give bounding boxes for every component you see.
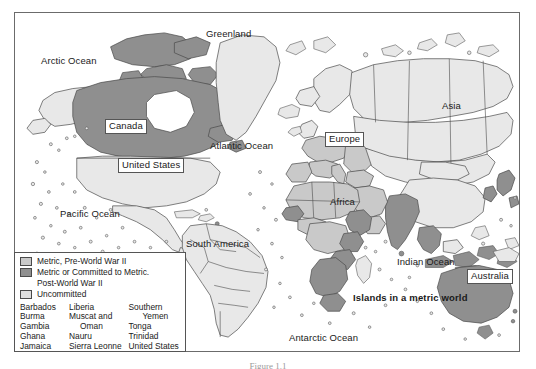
legend-metric-post-wwii-swatch	[20, 268, 32, 277]
legend-country-item: Jamaica	[20, 342, 69, 352]
legend-country-item: United States	[129, 342, 182, 352]
label-europe: Europe	[325, 132, 364, 147]
legend-uncommitted-line1: Uncommitted	[37, 289, 86, 299]
label-asia: Asia	[442, 101, 461, 111]
legend-metric-post-wwii-label: Metric or Committed to Metric.Post-World…	[37, 267, 149, 288]
label-islands-note: Islands in a metric world	[353, 293, 468, 303]
label-antarctic-ocean: Antarctic Ocean	[289, 333, 358, 343]
legend-metric-pre-wwii: Metric, Pre-World War II	[19, 256, 181, 266]
label-atlantic-ocean: Atlantic Ocean	[210, 141, 273, 151]
legend-metric-pre-wwii-swatch	[20, 257, 32, 266]
figure-caption: Figure 1.1	[0, 361, 536, 369]
label-united-states: United States	[118, 158, 184, 173]
legend-uncommitted-swatch	[20, 290, 32, 299]
legend-country-column-3: SouthernYemenTongaTrinidadUnited States	[129, 303, 182, 352]
label-australia: Australia	[467, 269, 513, 284]
legend-metric-post-wwii-line1: Metric or Committed to Metric.	[37, 267, 149, 277]
legend-country-list: BarbadosBurmaGambiaGhanaJamaicaLiberiaMu…	[19, 303, 181, 352]
label-south-america: South America	[186, 239, 249, 249]
label-greenland: Greenland	[206, 29, 251, 39]
metric-world-map-figure: .pre { fill:#c9c9c9; stroke:#4a4a4a; str…	[0, 0, 536, 369]
legend-metric-pre-wwii-label: Metric, Pre-World War II	[37, 256, 126, 266]
legend-entries: Metric, Pre-World War IIMetric or Commit…	[19, 256, 181, 300]
legend-metric-post-wwii: Metric or Committed to Metric.Post-World…	[19, 267, 181, 288]
label-africa: Africa	[330, 197, 355, 207]
legend-metric-post-wwii-line2: Post-World War II	[37, 278, 149, 288]
label-canada: Canada	[105, 119, 147, 134]
legend-uncommitted: Uncommitted	[19, 289, 181, 299]
label-indian-ocean: Indian Ocean	[397, 257, 455, 267]
map-legend: Metric, Pre-World War IIMetric or Commit…	[14, 252, 186, 352]
label-pacific-ocean: Pacific Ocean	[60, 209, 120, 219]
legend-country-item: Sierra Leonne	[69, 342, 129, 352]
label-arctic-ocean: Arctic Ocean	[41, 56, 97, 66]
legend-metric-pre-wwii-line1: Metric, Pre-World War II	[37, 256, 126, 266]
legend-country-column-1: BarbadosBurmaGambiaGhanaJamaica	[20, 303, 69, 352]
legend-country-column-2: LiberiaMuscat andOmanNauruSierra Leonne	[69, 303, 129, 352]
legend-uncommitted-label: Uncommitted	[37, 289, 86, 299]
